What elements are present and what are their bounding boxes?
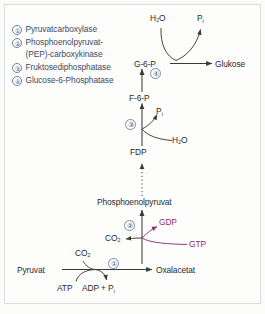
arrow-gtp-into-pepck (142, 238, 187, 245)
arrow-water-into-g6pase (161, 28, 176, 61)
legend-number-2: ② (12, 38, 22, 48)
arrow-co2-out-of-pepck (126, 238, 142, 239)
arrow-gdp-out-of-pepck (142, 227, 157, 239)
label-f6p: F-6-P (129, 93, 149, 103)
legend-label-2-line2: (PEP)-carboxykinase (26, 49, 143, 60)
label-water-top: H₂O (150, 13, 166, 23)
reaction-number-3: ③ (125, 119, 136, 130)
label-pi-top: Pi (197, 13, 204, 23)
label-adp-pi: ADP + Pi (82, 283, 115, 293)
label-co2-pep: CO₂ (105, 233, 121, 243)
label-oxaloacetate: Oxalacetat (156, 265, 195, 275)
label-gtp: GTP (189, 239, 206, 249)
enzyme-legend: ① Pyruvatcarboxylase ② Phosphoenolpyruva… (12, 24, 142, 89)
legend-label-2-line1: Phosphoenolpyruvat- (26, 37, 103, 47)
label-pi-mid: Pi (156, 106, 163, 116)
legend-number-1: ① (12, 25, 22, 35)
label-co2-pyruvate: CO₂ (75, 248, 91, 258)
label-pep: Phosphoenolpyruvat (97, 197, 172, 207)
gluconeogenesis-diagram: ① Pyruvatcarboxylase ② Phosphoenolpyruva… (0, 0, 265, 314)
label-atp: ATP (57, 283, 72, 293)
legend-item-3: ③ Fruktosediphosphatase (12, 62, 142, 73)
arrow-adp-pi-out (95, 270, 107, 281)
legend-label-1: Pyruvatcarboxylase (26, 24, 143, 35)
legend-item-1: ① Pyruvatcarboxylase (12, 24, 142, 35)
arrow-pi-out-of-g6pase (176, 30, 201, 61)
reaction-number-4: ④ (150, 68, 161, 79)
legend-label-4: Glucose-6-Phosphatase (26, 75, 143, 86)
label-pyruvate: Pyruvat (17, 265, 45, 275)
legend-item-4: ④ Glucose-6-Phosphatase (12, 75, 142, 86)
legend-number-4: ④ (12, 76, 22, 86)
arrow-pi-out-of-fdpase (142, 115, 157, 130)
arrow-co2-into-pyruvate-carboxylase (83, 261, 95, 270)
legend-label-3: Fruktosediphosphatase (26, 62, 143, 73)
arrow-water-into-fdpase (142, 129, 172, 141)
legend-number-3: ③ (12, 63, 22, 73)
legend-label-2: Phosphoenolpyruvat- (PEP)-carboxykinase (26, 37, 143, 59)
label-water-mid: H₂O (172, 135, 188, 145)
reaction-number-1: ① (108, 258, 119, 269)
label-gdp: GDP (159, 217, 177, 227)
label-fdp: FDP (130, 147, 146, 157)
legend-item-2: ② Phosphoenolpyruvat- (PEP)-carboxykinas… (12, 37, 142, 59)
label-glucose: Glukose (215, 59, 245, 69)
reaction-number-2: ② (124, 220, 135, 231)
arrow-atp-to-adp (76, 270, 95, 282)
